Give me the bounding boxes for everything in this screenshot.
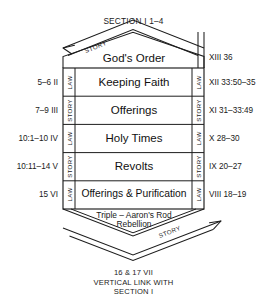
caption-line-3: SECTION I (0, 287, 267, 296)
left-ref-offerings: 7–9 III (0, 107, 58, 115)
right-ref-gods-order: XIII 36 (209, 54, 267, 62)
row-label-offerings-purification: Offerings & Purification (76, 189, 192, 199)
row-label-offerings: Offerings (76, 105, 192, 117)
left-band-offerings-purification: LAW (66, 180, 73, 210)
left-ref-revolts: 10:11–14 V (0, 163, 58, 171)
caption-line-1: 16 & 17 VII (0, 268, 267, 277)
row-label-gods-order: God's Order (76, 53, 192, 65)
bottom-chevron-label-line2: Rebellion (66, 220, 202, 230)
row-label-revolts: Revolts (76, 161, 192, 173)
right-ref-offerings: XI 31–33:49 (209, 107, 267, 115)
diagram-canvas: SECTION I 1–4 STORY God's Order XIII 36 … (0, 0, 267, 299)
right-band-keeping-faith: LAW (195, 68, 202, 98)
bottom-inner-arrow-line (70, 230, 214, 261)
section-i-label: SECTION I 1–4 (0, 17, 267, 25)
caption-line-2: VERTICAL LINK WITH (0, 278, 267, 287)
right-band-offerings-purification: LAW (195, 180, 202, 210)
right-ref-keeping-faith: XII 33:50–35 (209, 79, 267, 87)
left-ref-keeping-faith: 5–6 II (0, 79, 58, 87)
left-ref-holy-times: 10:1–10 IV (0, 135, 58, 143)
left-band-revolts: STORY (66, 152, 73, 182)
right-ref-holy-times: X 28–30 (209, 135, 267, 143)
left-ref-offerings-purification: 15 VI (0, 191, 58, 199)
numbers-structure-diagram (0, 0, 267, 299)
left-band-keeping-faith: LAW (66, 68, 73, 98)
left-band-offerings: STORY (66, 96, 73, 126)
right-ref-offerings-purification: VIII 18–19 (209, 191, 267, 199)
row-label-holy-times: Holy Times (76, 133, 192, 145)
right-band-revolts: STORY (195, 152, 202, 182)
row-label-keeping-faith: Keeping Faith (76, 77, 192, 89)
right-band-holy-times: LAW (195, 124, 202, 154)
top-arrowhead (63, 45, 75, 54)
right-band-offerings: STORY (195, 96, 202, 126)
right-ref-revolts: IX 20–27 (209, 163, 267, 171)
left-band-holy-times: LAW (66, 124, 73, 154)
